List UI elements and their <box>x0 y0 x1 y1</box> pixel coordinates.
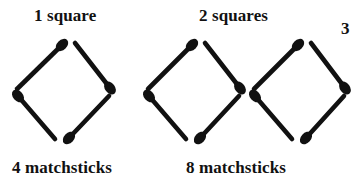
matchstick <box>75 43 118 97</box>
matchstick-shaft <box>148 45 192 89</box>
matchstick-shaft <box>306 96 344 138</box>
label-group1-matchsticks: 4 matchsticks <box>12 158 112 178</box>
matchstick <box>297 96 344 147</box>
matchstick-shaft <box>75 43 110 88</box>
label-group3-partial-cutoff: 3 <box>341 19 353 39</box>
matchstick-shaft <box>311 43 345 88</box>
matchstick-shaft <box>17 45 62 89</box>
matchstick <box>141 87 186 139</box>
matchstick-shaft <box>255 96 292 139</box>
matchstick <box>148 36 201 89</box>
matchstick-shaft <box>254 45 298 89</box>
matchstick <box>254 36 307 89</box>
label-group2-squares: 2 squares <box>199 6 268 26</box>
matchstick-shaft <box>18 96 55 139</box>
label-group2-matchsticks: 8 matchsticks <box>186 158 286 178</box>
matchstick-shaft <box>200 96 239 138</box>
matchstick <box>10 87 55 139</box>
matchstick-figure: 1 square 2 squares 4 matchsticks 8 match… <box>0 0 353 188</box>
matchstick-shaft <box>205 43 240 88</box>
matchstick-square <box>10 36 119 146</box>
matchstick-square <box>141 36 249 146</box>
matchstick <box>247 87 292 139</box>
matchstick-shaft <box>149 96 186 139</box>
matchstick-shaft <box>69 96 109 138</box>
matchstick <box>205 43 248 97</box>
matchstick-square <box>247 36 353 146</box>
matchstick <box>191 96 239 147</box>
matchstick <box>60 96 109 147</box>
matchstick <box>17 36 71 89</box>
label-group1-squares: 1 square <box>34 6 96 26</box>
matchstick <box>311 43 353 97</box>
